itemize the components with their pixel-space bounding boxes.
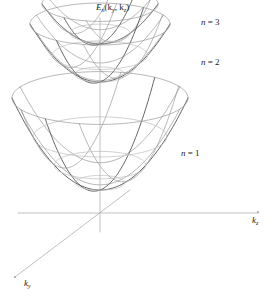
paraboloid-plot-canvas (0, 0, 279, 298)
landau-level-figure: En(ky, kz) kz ky n = 3 n = 2 n = 1 (0, 0, 279, 298)
kz-axis-endpoint (257, 211, 259, 213)
band-label-n1: n = 1 (181, 149, 200, 158)
band-label-n3: n = 3 (201, 18, 220, 27)
ky-axis-label: ky (24, 279, 31, 288)
axes-layer (14, 18, 259, 278)
kz-axis-label: kz (252, 216, 258, 225)
band-label-n2: n = 2 (201, 58, 220, 67)
profile-parabola (79, 86, 178, 182)
energy-axis-label: En(ky, kz) (96, 3, 129, 12)
profile-parabola (21, 72, 120, 168)
ky-axis-line (15, 190, 130, 277)
ky-axis-endpoint (14, 276, 16, 278)
